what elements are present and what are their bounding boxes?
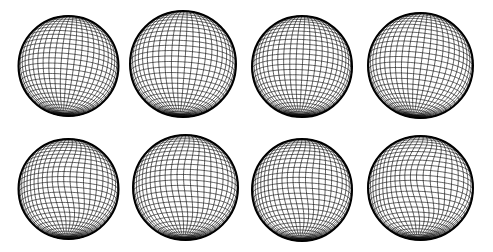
figure-canvas — [0, 0, 493, 252]
bottom-row-deformed-spheres — [19, 135, 474, 241]
sphere-mesh-figure — [0, 0, 493, 252]
sphere-4 — [368, 13, 473, 118]
sphere-6 — [133, 135, 238, 240]
sphere-5 — [19, 139, 119, 239]
sphere-1 — [19, 16, 119, 116]
sphere-8 — [368, 136, 473, 240]
sphere-2 — [130, 11, 236, 117]
sphere-7 — [252, 139, 352, 241]
top-row-regular-spheres — [19, 11, 474, 118]
sphere-3 — [252, 16, 352, 117]
